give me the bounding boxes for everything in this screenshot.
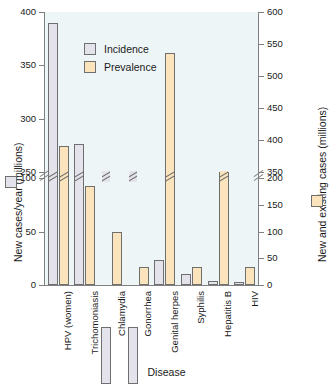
legend: Incidence Prevalence — [84, 40, 157, 76]
left-axis-tick-label: 350 — [20, 60, 36, 70]
right-axis-tick — [258, 44, 264, 45]
right-axis-tick — [258, 232, 264, 233]
bar-inc-4 — [154, 260, 164, 285]
left-axis-tick-label: 300 — [20, 114, 36, 124]
bar-break-icon — [166, 171, 174, 182]
legend-label-prevalence: Prevalence — [104, 61, 157, 73]
x-axis-category-label: Hepatitis B — [222, 291, 233, 337]
x-axis-category-label: Gonorrhea — [142, 291, 153, 336]
bar-break-icon — [102, 171, 110, 182]
bar-break-icon — [75, 171, 83, 182]
x-axis-category-label: Trichomoniasis — [89, 291, 100, 355]
right-axis-tick — [258, 108, 264, 109]
right-axis-tick — [258, 12, 264, 13]
x-axis-title: Disease — [0, 366, 333, 378]
x-axis-category-label: Syphilis — [195, 291, 206, 324]
left-axis-tick — [39, 12, 45, 13]
bar-prev-6 — [219, 172, 229, 285]
right-axis-tick-label: 400 — [267, 135, 283, 145]
left-axis-tick — [39, 172, 45, 173]
left-axis-tick — [39, 178, 45, 179]
right-axis-tick-label: 600 — [267, 7, 283, 17]
right-axis-tick-label: 0 — [267, 280, 272, 290]
legend-item-incidence: Incidence — [84, 40, 157, 58]
bar-inc-5 — [181, 274, 191, 285]
right-axis-tick — [258, 140, 264, 141]
right-axis-tick — [258, 285, 264, 286]
legend-swatch-incidence — [84, 43, 96, 55]
left-axis-tick — [39, 65, 45, 66]
x-axis-category-label: Chlamydia — [116, 291, 127, 336]
right-axis-tick-label: 550 — [267, 39, 283, 49]
x-axis-category-label: Genital herpes — [169, 291, 180, 353]
right-axis-tick-label: 350 — [267, 167, 283, 177]
bar-break-icon — [220, 171, 228, 182]
legend-swatch-prevalence — [84, 61, 96, 73]
bar-prev-5 — [192, 267, 202, 285]
bar-prev-1 — [85, 186, 95, 285]
bar-inc-1 — [74, 144, 84, 285]
right-y-axis-title: New and existing cases (millions) — [316, 107, 328, 262]
left-axis-series-swatch — [5, 176, 17, 188]
bar-inc-7 — [234, 282, 244, 285]
left-axis-tick — [39, 119, 45, 120]
bottom-axis-line — [44, 285, 259, 286]
chart-figure: 0501002503003504000501001502003504004505… — [0, 0, 333, 384]
x-axis-category-label: HIV — [249, 291, 260, 307]
right-axis-tick — [258, 172, 264, 173]
left-axis-tick-label: 50 — [25, 227, 36, 237]
right-axis-tick — [258, 258, 264, 259]
right-axis-tick-label: 50 — [267, 253, 278, 263]
bar-inc-0 — [48, 23, 58, 285]
left-axis-tick-label: 400 — [20, 7, 36, 17]
bar-prev-0 — [59, 146, 69, 285]
right-axis-tick-label: 100 — [267, 227, 283, 237]
right-axis-line — [258, 12, 259, 286]
left-axis-tick — [39, 285, 45, 286]
bar-prev-3 — [139, 267, 149, 285]
left-axis-tick — [39, 232, 45, 233]
bar-prev-2 — [112, 232, 122, 286]
legend-label-incidence: Incidence — [104, 43, 149, 55]
bar-prev-4 — [165, 53, 175, 285]
right-axis-tick-label: 150 — [267, 200, 283, 210]
bar-break-icon — [129, 171, 137, 182]
x-axis-category-label: HPV (women) — [62, 291, 73, 350]
left-axis-tick-label: 0 — [31, 280, 36, 290]
left-y-axis-title: New cases/year (millions) — [12, 142, 24, 262]
right-axis-tick-label: 500 — [267, 71, 283, 81]
bar-break-icon — [60, 171, 68, 182]
right-axis-series-swatch — [311, 195, 323, 207]
left-axis-line — [44, 12, 45, 286]
right-axis-tick-label: 450 — [267, 103, 283, 113]
bar-prev-7 — [245, 267, 255, 285]
right-axis-tick — [258, 76, 264, 77]
bar-inc-6 — [208, 281, 218, 285]
right-axis-tick — [258, 205, 264, 206]
legend-item-prevalence: Prevalence — [84, 58, 157, 76]
bar-break-icon — [49, 171, 57, 182]
right-axis-tick — [258, 178, 264, 179]
